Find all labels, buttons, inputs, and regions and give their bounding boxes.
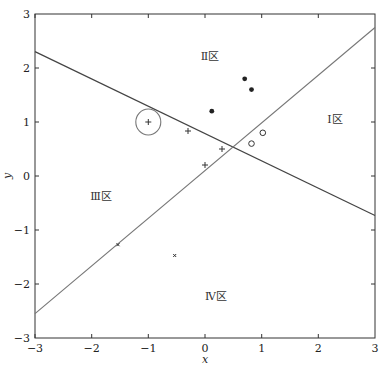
x-tick-label: 3 (372, 342, 379, 355)
y-tick-label: 0 (23, 170, 30, 183)
y-tick-label: 2 (23, 62, 30, 75)
y-tick-label: 3 (23, 8, 30, 21)
x-tick-label: 2 (315, 342, 322, 355)
x-tick-label: 1 (258, 342, 265, 355)
y-tick-label: −1 (14, 224, 30, 237)
chart: −3 −2 −1 0 1 2 3 3 2 1 0 −1 −2 −3 x y Ⅱ区… (0, 0, 385, 371)
region-label-4: Ⅳ区 (205, 290, 227, 303)
region-label-2: Ⅱ区 (201, 50, 219, 63)
boundary-line-2 (35, 28, 375, 314)
y-tick-label: −2 (14, 278, 30, 291)
open-circle-markers (249, 130, 266, 146)
x-axis-label: x (202, 353, 209, 366)
cross-markers (117, 243, 177, 257)
filled-dot-markers (209, 76, 254, 113)
region-label-3: Ⅲ区 (90, 190, 112, 203)
y-tick-label: −3 (14, 332, 30, 345)
y-ticks (35, 68, 375, 284)
x-tick-label: −1 (140, 342, 156, 355)
plus-markers (145, 119, 225, 168)
boundary-line-1 (35, 52, 375, 216)
x-tick-label: −2 (84, 342, 100, 355)
x-ticks (35, 14, 318, 338)
y-tick-label: 1 (23, 116, 30, 129)
y-axis-label: y (1, 172, 14, 180)
region-label-1: Ⅰ区 (327, 113, 342, 126)
